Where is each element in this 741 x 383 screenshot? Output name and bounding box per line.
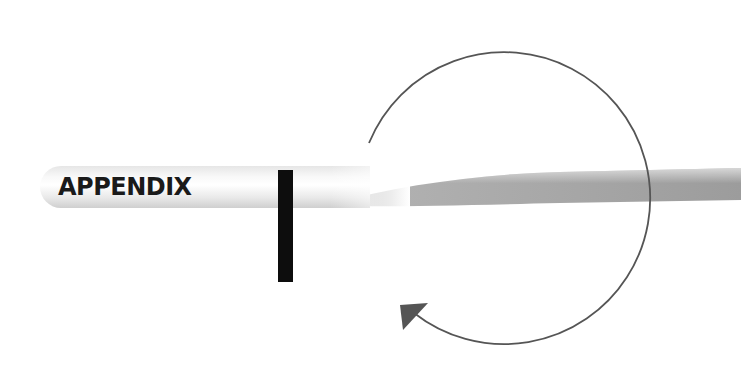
circular-arrow-icon: [0, 0, 741, 383]
diagram-canvas: APPENDIX: [0, 0, 741, 383]
